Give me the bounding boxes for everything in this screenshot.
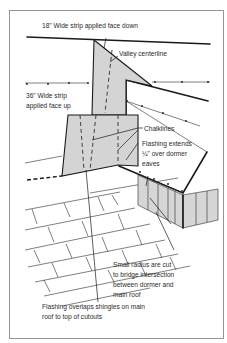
label-overlap-line1: Flashing overlaps shingles on main <box>42 303 145 311</box>
label-small-radius-line1: Small radius are cut <box>113 261 171 268</box>
label-flashing-extends-line3: eaves <box>142 160 160 167</box>
label-flashing-extends-line1: Flashing extends <box>142 140 193 148</box>
label-36in-strip-line1: 36" Wide strip <box>26 92 67 100</box>
label-18in-strip: 18" Wide strip applied face down <box>42 22 138 30</box>
label-small-radius-line4: main roof <box>113 291 141 298</box>
label-chalklines: Chalklines <box>144 125 175 132</box>
dormer-valley-flashing-diagram: 18" Wide strip applied face down Valley … <box>0 0 227 343</box>
label-small-radius-line3: between dormer and <box>113 281 174 288</box>
label-flashing-extends-line2: ¼" over dormer <box>142 150 188 157</box>
label-36in-strip-line2: applied face up <box>26 102 71 110</box>
label-valley-centerline: Valley centerline <box>119 50 167 58</box>
label-overlap-line2: roof to top of cutouts <box>42 313 103 321</box>
label-small-radius-line2: to bridge intersection <box>113 271 175 279</box>
